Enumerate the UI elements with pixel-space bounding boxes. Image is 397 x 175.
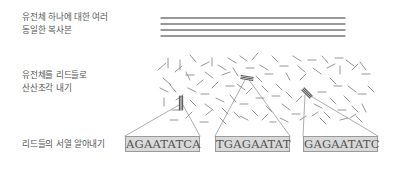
read-fragment [324, 112, 330, 118]
read-fragment [234, 112, 240, 118]
read-fragment [163, 78, 171, 85]
read-fragment [368, 86, 374, 92]
read-fragment [360, 62, 366, 70]
read-fragment [298, 66, 305, 72]
read-fragment [282, 104, 290, 110]
sequence-box-1: AGAATATCA [125, 136, 200, 152]
read-fragment [313, 68, 321, 74]
read-fragment [170, 85, 176, 92]
read-fragment [350, 114, 356, 118]
read-fragment [312, 112, 318, 116]
zoom-line [183, 105, 200, 136]
zoom-line [215, 80, 245, 136]
read-fragment [344, 96, 350, 102]
read-fragment [300, 116, 306, 120]
read-fragment [272, 56, 278, 62]
read-fragment [362, 104, 366, 112]
read-fragment [300, 74, 306, 80]
read-fragment [346, 60, 354, 66]
highlighted-reads [179, 75, 312, 110]
read-fragment [286, 73, 290, 80]
read-fragment [256, 76, 262, 82]
read-fragment [314, 104, 322, 108]
read-fragment [205, 72, 213, 78]
read-fragment [327, 64, 335, 68]
read-fragment [296, 96, 302, 102]
read-fragment [293, 56, 301, 61]
read-fragment [276, 84, 282, 90]
read-fragment [190, 100, 196, 106]
read-fragment [222, 72, 230, 75]
read-fragment [252, 110, 258, 116]
read-fragment [216, 98, 224, 102]
read-fragment [197, 80, 203, 85]
read-fragment [186, 72, 190, 80]
read-fragment [330, 98, 336, 104]
read-fragment [175, 66, 182, 72]
read-fragment [188, 88, 196, 92]
read-fragment [212, 82, 218, 88]
read-fragment [330, 78, 336, 84]
genome-copies [161, 18, 345, 36]
read-fragment [201, 62, 209, 66]
read-fragment [158, 63, 166, 70]
read-fragment [262, 114, 268, 120]
read-fragment [205, 104, 213, 110]
read-fragment [260, 65, 268, 70]
read-fragment [286, 92, 292, 98]
sequence-box-2: TGAGAATAT [215, 136, 290, 152]
sequence-box-3: GAGAATATC [303, 136, 378, 152]
read-fragment [246, 88, 252, 94]
read-fragment [340, 118, 348, 120]
zoom-line [125, 105, 179, 136]
read-fragments [158, 53, 374, 124]
read-fragment [262, 86, 268, 92]
read-fragment [228, 58, 236, 63]
zoom-line [303, 95, 305, 136]
read-fragment [218, 65, 226, 70]
read-fragment [252, 53, 258, 60]
read-fragment [352, 106, 358, 112]
read-fragment [233, 68, 238, 76]
read-fragment [322, 56, 328, 63]
read-fragment [240, 56, 247, 61]
read-fragment [240, 116, 248, 120]
read-fragment [320, 118, 326, 124]
read-fragment [348, 86, 356, 92]
read-fragment [190, 55, 196, 62]
read-fragment [160, 88, 168, 92]
read-fragment [356, 116, 362, 122]
read-fragment [206, 110, 212, 115]
zoom-line [309, 95, 378, 136]
read-fragment [280, 118, 288, 122]
zoom-line [249, 80, 290, 136]
